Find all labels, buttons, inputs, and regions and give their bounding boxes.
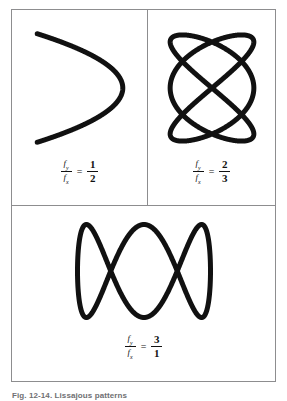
ratio-label-3-1: fy fx = 3 1 [125, 334, 163, 359]
frequency-symbol-fraction: fy fx [193, 159, 204, 184]
ratio-value-fraction: 2 3 [219, 159, 230, 184]
lissajous-curve-3-1 [73, 221, 215, 321]
lissajous-plot-1-2 [34, 30, 126, 146]
ratio-denominator: 2 [88, 173, 98, 184]
frequency-symbol-denominator: fx [194, 173, 203, 184]
panel-ratio-1-2: fy fx = 1 2 [12, 10, 147, 206]
ratio-value-fraction: 3 1 [151, 334, 162, 359]
frequency-symbol-numerator: fy [194, 159, 203, 170]
frequency-symbol-numerator: fy [62, 159, 71, 170]
lissajous-path-1-2 [37, 34, 123, 143]
equals-sign: = [77, 167, 83, 177]
lissajous-curve-2-3 [167, 30, 257, 146]
ratio-numerator: 1 [88, 159, 98, 170]
frequency-symbol-denominator: fx [126, 348, 135, 359]
ratio-numerator: 3 [152, 334, 162, 345]
frequency-symbol-numerator: fy [126, 334, 135, 345]
ratio-numerator: 2 [220, 159, 230, 170]
panel-ratio-3-1: fy fx = 3 1 [12, 206, 275, 383]
panel-ratio-2-3: fy fx = 2 3 [148, 10, 275, 206]
lissajous-plot-3-1 [73, 221, 215, 321]
ratio-denominator: 1 [152, 348, 162, 359]
fraction-bar [193, 171, 204, 172]
ratio-label-1-2: fy fx = 1 2 [61, 159, 99, 184]
ratio-denominator: 3 [220, 173, 230, 184]
lissajous-path-3-1 [77, 225, 210, 318]
figure-frame: fy fx = 1 2 fy [11, 9, 276, 382]
ratio-value-fraction: 1 2 [87, 159, 98, 184]
lissajous-path-2-3 [170, 35, 254, 141]
equals-sign: = [209, 167, 215, 177]
ratio-label-2-3: fy fx = 2 3 [193, 159, 231, 184]
lissajous-curve-1-2 [34, 30, 126, 146]
figure-caption: Fig. 12-14. Lissajous patterns [12, 391, 274, 401]
lissajous-plot-2-3 [167, 30, 257, 146]
fraction-bar [125, 346, 136, 347]
fraction-bar [61, 171, 72, 172]
lissajous-figure: fy fx = 1 2 fy [0, 0, 287, 401]
equals-sign: = [141, 342, 147, 352]
frequency-symbol-denominator: fx [62, 173, 71, 184]
frequency-symbol-fraction: fy fx [61, 159, 72, 184]
frequency-symbol-fraction: fy fx [125, 334, 136, 359]
